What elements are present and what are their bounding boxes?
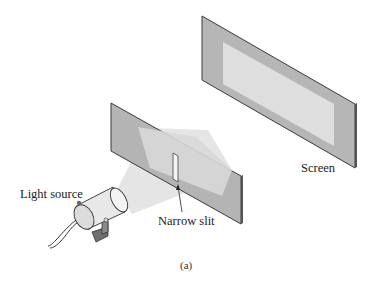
screen [202, 16, 357, 168]
label-narrow-slit: Narrow slit [158, 214, 215, 228]
narrow-slit [173, 153, 178, 182]
single-slit-diagram: Screen Light source Narrow slit (a) [0, 0, 375, 285]
figure-caption: (a) [180, 259, 193, 272]
label-screen: Screen [301, 161, 336, 175]
label-light-source: Light source [20, 187, 83, 201]
